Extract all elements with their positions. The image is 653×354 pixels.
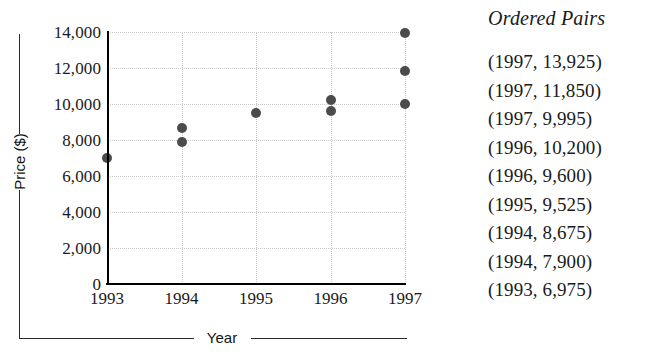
ordered-pair-item: (1994, 8,675) [488, 219, 602, 248]
data-point [400, 28, 410, 38]
ordered-pair-item: (1993, 6,975) [488, 276, 602, 305]
ordered-pairs-title: Ordered Pairs [488, 6, 605, 30]
x-axis-tick-label: 1993 [72, 290, 142, 307]
ordered-pair-item: (1997, 11,850) [488, 77, 602, 106]
y-axis-leader-line-bottom [19, 190, 20, 338]
x-axis-title: Year [196, 330, 248, 345]
x-axis-tick-label: 1995 [221, 290, 291, 307]
ordered-pair-item: (1995, 9,525) [488, 191, 602, 220]
x-axis-tick-label: 1997 [370, 290, 440, 307]
ordered-pairs-panel: Ordered Pairs (1997, 13,925)(1997, 11,85… [488, 0, 653, 354]
data-point [326, 95, 336, 105]
data-point [251, 108, 261, 118]
data-point [400, 99, 410, 109]
ordered-pair-item: (1997, 13,925) [488, 48, 602, 77]
x-axis-line [106, 283, 406, 285]
y-axis-tick-label: 2,000 [9, 240, 101, 257]
y-axis-tick-label: 12,000 [9, 60, 101, 77]
ordered-pair-item: (1996, 9,600) [488, 162, 602, 191]
data-point [177, 123, 187, 133]
y-axis-tick-label: 10,000 [9, 96, 101, 113]
x-axis-tick-label: 1996 [296, 290, 366, 307]
y-axis-line [107, 31, 109, 285]
data-point [400, 66, 410, 76]
data-point [326, 106, 336, 116]
x-axis-leader-line-left [19, 338, 194, 339]
gridline-vertical [256, 32, 257, 284]
gridline-vertical [182, 32, 183, 284]
plot-area [107, 32, 405, 284]
ordered-pair-item: (1997, 9,995) [488, 105, 602, 134]
y-axis-tick-label: 14,000 [9, 24, 101, 41]
gridline-vertical [331, 32, 332, 284]
x-axis-tick-label: 1994 [147, 290, 217, 307]
x-axis-leader-line-right [251, 338, 407, 339]
ordered-pair-item: (1994, 7,900) [488, 248, 602, 277]
data-point [177, 137, 187, 147]
ordered-pair-item: (1996, 10,200) [488, 134, 602, 163]
scatter-plot-figure: 02,0004,0006,0008,00010,00012,00014,000 … [0, 0, 460, 354]
ordered-pairs-list: (1997, 13,925)(1997, 11,850)(1997, 9,995… [488, 48, 602, 305]
